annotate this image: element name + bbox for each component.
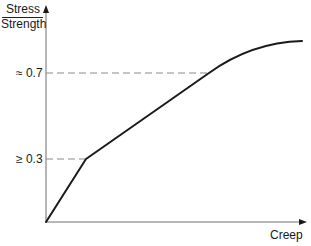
y-axis-label-numerator: Stress bbox=[6, 2, 40, 16]
x-axis-arrow-icon bbox=[299, 219, 307, 225]
y-axis-label-denominator: Strength bbox=[1, 17, 46, 31]
creep-curve bbox=[46, 41, 302, 222]
y-tick-label-0.7: ≈ 0.7 bbox=[16, 66, 43, 80]
x-axis-label: Creep bbox=[270, 228, 303, 242]
chart-canvas bbox=[0, 0, 311, 246]
y-axis-arrow-icon bbox=[43, 5, 49, 13]
y-tick-label-0.3: ≥ 0.3 bbox=[16, 152, 43, 166]
